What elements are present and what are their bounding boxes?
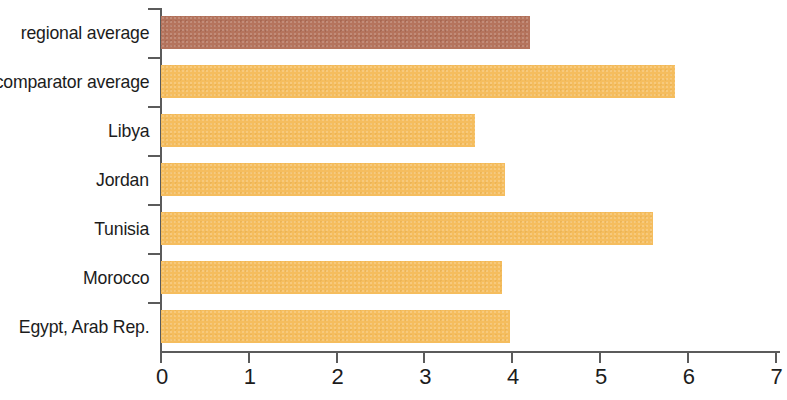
category-label: Jordan [96, 155, 149, 204]
y-axis-tick [148, 57, 161, 59]
category-label: regional average [20, 8, 149, 57]
x-axis-tick [775, 352, 777, 363]
bar-5 [161, 261, 502, 294]
category-label: comparator average [0, 57, 149, 106]
y-axis-tick [148, 155, 161, 157]
bar-3 [161, 163, 505, 196]
chart-row: Morocco [0, 253, 780, 302]
chart-row: Libya [0, 106, 780, 155]
x-axis-tick [687, 352, 689, 363]
x-axis-tick-label: 6 [669, 364, 709, 390]
y-axis-tick [148, 253, 161, 255]
chart-row: regional average [0, 8, 780, 57]
chart-row: comparator average [0, 57, 780, 106]
y-axis-tick [148, 302, 161, 304]
y-axis-tick [148, 8, 161, 10]
y-axis-tick [148, 106, 161, 108]
x-axis-tick [160, 352, 162, 363]
chart-row: Tunisia [0, 204, 780, 253]
category-label: Egypt, Arab Rep. [18, 302, 149, 351]
bar-6 [161, 310, 510, 343]
x-axis-tick-label: 4 [493, 364, 533, 390]
chart-row: Egypt, Arab Rep. [0, 302, 780, 351]
x-axis-tick-label: 0 [142, 364, 182, 390]
x-axis-tick [511, 352, 513, 363]
x-axis-tick-label: 7 [757, 364, 787, 390]
category-label: Morocco [83, 253, 149, 302]
x-axis-tick [336, 352, 338, 363]
x-axis-tick [599, 352, 601, 363]
x-axis-tick-label: 2 [318, 364, 358, 390]
x-axis-tick-label: 3 [405, 364, 445, 390]
category-label: Tunisia [94, 204, 149, 253]
bar-1 [161, 65, 675, 98]
x-axis-tick-label: 1 [230, 364, 270, 390]
x-axis-tick-label: 5 [581, 364, 621, 390]
x-axis-tick [248, 352, 250, 363]
y-axis-tick [148, 204, 161, 206]
bar-2 [161, 114, 475, 147]
x-axis-tick [423, 352, 425, 363]
category-label: Libya [108, 106, 149, 155]
bar-4 [161, 212, 653, 245]
bar-0 [161, 16, 530, 49]
chart-row: Jordan [0, 155, 780, 204]
